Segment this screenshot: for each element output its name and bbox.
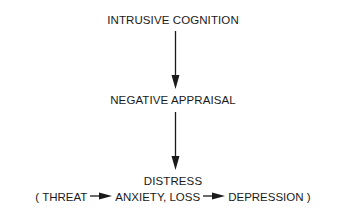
- close-paren: ): [307, 191, 311, 203]
- detail-threat: THREAT: [42, 191, 87, 203]
- detail-depression: DEPRESSION: [228, 191, 303, 203]
- node-negative-appraisal: NEGATIVE APPRAISAL: [0, 94, 346, 107]
- arrow-down-icon: [171, 112, 180, 170]
- arrow-right-icon: [203, 190, 225, 198]
- arrow-down-icon: [171, 31, 180, 89]
- node-distress: DISTRESS: [0, 175, 346, 188]
- node-intrusive-cognition: INTRUSIVE COGNITION: [0, 14, 346, 27]
- open-paren: (: [35, 191, 39, 203]
- arrow-right-icon: [90, 190, 112, 198]
- distress-detail: ( THREATANXIETY, LOSSDEPRESSION ): [0, 190, 346, 204]
- detail-anxiety-loss: ANXIETY, LOSS: [115, 191, 200, 203]
